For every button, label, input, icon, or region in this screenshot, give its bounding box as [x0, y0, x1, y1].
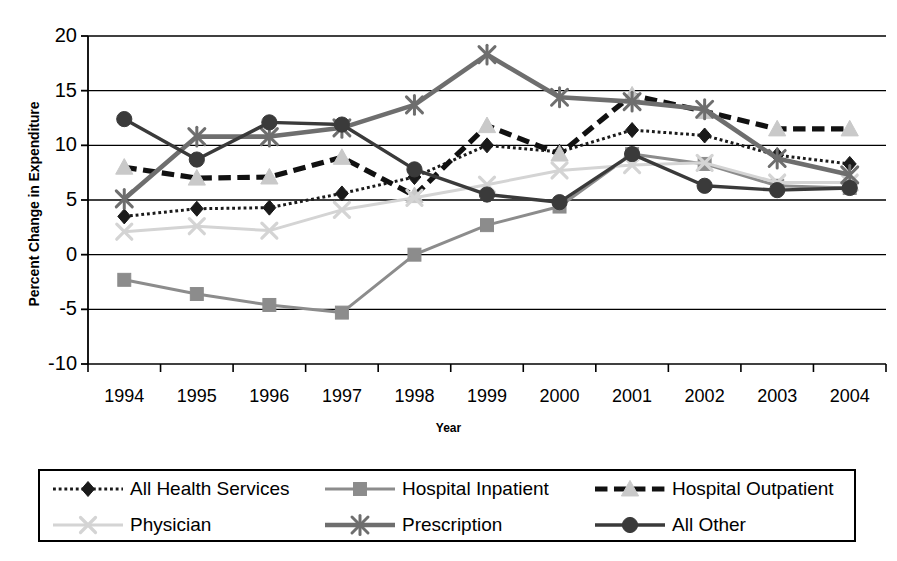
data-point-marker	[698, 128, 711, 143]
line-chart-figure: Percent Change in Expenditure Year -10-5…	[0, 0, 897, 561]
data-point-marker	[263, 298, 276, 311]
data-point-marker	[118, 273, 131, 286]
legend-item-physician[interactable]: Physician	[40, 507, 322, 543]
legend-swatch	[50, 512, 126, 538]
x-tick-label: 2003	[737, 386, 817, 406]
data-point-marker	[624, 146, 639, 161]
x-tick-label: 1997	[302, 386, 382, 406]
x-tick-label: 1995	[157, 386, 237, 406]
y-tick-label: 5	[21, 189, 77, 209]
data-point-marker	[478, 117, 495, 133]
data-point-marker	[552, 195, 567, 210]
data-point-marker	[697, 178, 712, 193]
legend-item-label: Hospital Outpatient	[668, 478, 834, 500]
x-tick-label: 1996	[229, 386, 309, 406]
y-tick-label: -5	[21, 298, 77, 318]
legend-item-all-health-services[interactable]: All Health Services	[40, 471, 322, 507]
data-point-marker	[481, 138, 494, 153]
legend-row: PhysicianPrescriptionAll Other	[40, 507, 854, 543]
data-point-marker	[190, 201, 203, 216]
legend-item-hospital-outpatient[interactable]: Hospital Outpatient	[592, 471, 854, 507]
legend-swatch	[592, 476, 668, 502]
data-point-marker	[334, 117, 349, 132]
data-point-marker	[770, 183, 785, 198]
legend-swatch	[592, 512, 668, 538]
data-point-marker	[189, 152, 204, 167]
y-tick-label: 0	[21, 244, 77, 264]
legend-row: All Health ServicesHospital InpatientHos…	[40, 471, 854, 507]
legend-swatch	[322, 476, 398, 502]
x-tick-label: 1998	[374, 386, 454, 406]
legend-item-label: Physician	[126, 514, 211, 536]
legend-item-label: Prescription	[398, 514, 502, 536]
data-point-marker	[335, 306, 348, 319]
legend-item-label: All Health Services	[126, 478, 289, 500]
x-tick-label: 1999	[447, 386, 527, 406]
data-point-marker	[262, 115, 277, 130]
y-tick-label: -10	[21, 353, 77, 373]
chart-plot-area: Percent Change in Expenditure Year -10-5…	[0, 0, 897, 450]
legend-item-prescription[interactable]: Prescription	[322, 507, 592, 543]
series-line	[124, 154, 849, 313]
legend-item-label: Hospital Inpatient	[398, 478, 549, 500]
legend-item-all-other[interactable]: All Other	[592, 507, 854, 543]
data-point-marker	[190, 288, 203, 301]
x-tick-label: 2001	[592, 386, 672, 406]
data-point-marker	[626, 123, 639, 138]
data-point-marker	[479, 45, 495, 64]
data-point-marker	[354, 483, 367, 496]
data-point-marker	[263, 200, 276, 215]
data-point-marker	[335, 186, 348, 201]
data-point-marker	[82, 482, 95, 497]
data-point-marker	[481, 219, 494, 232]
y-tick-label: 20	[21, 25, 77, 45]
x-tick-label: 2000	[520, 386, 600, 406]
data-point-marker	[408, 248, 421, 261]
data-point-marker	[479, 187, 494, 202]
chart-legend: All Health ServicesHospital InpatientHos…	[38, 469, 856, 542]
data-point-marker	[116, 189, 132, 208]
x-axis-title: Year	[0, 421, 897, 435]
data-point-marker	[622, 517, 637, 532]
legend-swatch	[322, 512, 398, 538]
y-tick-label: 10	[21, 134, 77, 154]
legend-item-label: All Other	[668, 514, 746, 536]
x-tick-label: 1994	[84, 386, 164, 406]
data-point-marker	[841, 120, 858, 136]
y-tick-label: 15	[21, 80, 77, 100]
data-point-marker	[117, 111, 132, 126]
chart-svg	[0, 0, 897, 450]
legend-item-hospital-inpatient[interactable]: Hospital Inpatient	[322, 471, 592, 507]
x-tick-label: 2004	[810, 386, 890, 406]
data-point-marker	[118, 209, 131, 224]
x-tick-label: 2002	[665, 386, 745, 406]
data-point-marker	[842, 180, 857, 195]
data-point-marker	[407, 162, 422, 177]
legend-swatch	[50, 476, 126, 502]
